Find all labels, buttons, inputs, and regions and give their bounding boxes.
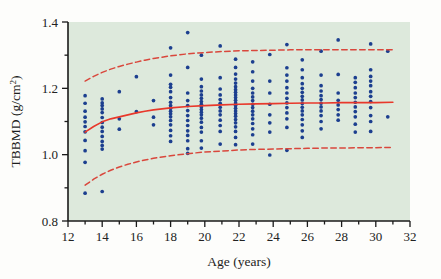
data-point [251, 142, 255, 146]
data-point [251, 91, 255, 95]
data-point [218, 142, 222, 146]
data-point [100, 147, 104, 151]
x-axis-title: Age (years) [207, 254, 270, 269]
data-point [285, 126, 289, 130]
data-point [83, 139, 87, 143]
data-point [268, 91, 272, 95]
data-point [285, 79, 289, 83]
data-point [83, 125, 87, 129]
data-point [268, 121, 272, 125]
data-point [234, 77, 238, 81]
data-point [135, 75, 139, 79]
data-point [169, 140, 173, 144]
data-point [336, 113, 340, 117]
data-point [169, 123, 173, 127]
data-point [300, 136, 304, 140]
y-tick-label: 0.8 [42, 214, 58, 229]
data-point [100, 130, 104, 134]
data-point [200, 93, 204, 97]
data-point [336, 98, 340, 102]
data-point [100, 125, 104, 129]
data-point [200, 139, 204, 143]
data-point [369, 120, 373, 124]
data-point [234, 121, 238, 125]
data-point [251, 113, 255, 117]
data-point [319, 73, 323, 77]
data-point [218, 76, 222, 80]
y-tick-label: 1.0 [42, 147, 58, 162]
scatter-plot-figure: 12141618202224262830321.41.21.00.8Age (y… [0, 0, 441, 279]
data-point [336, 38, 340, 42]
data-point [285, 86, 289, 90]
data-point [369, 42, 373, 46]
data-point [186, 139, 190, 143]
data-point [300, 98, 304, 102]
data-point [169, 115, 173, 119]
data-point [369, 79, 373, 83]
data-point [218, 124, 222, 128]
y-tick-label: 1.2 [42, 81, 58, 96]
data-point [200, 77, 204, 81]
data-point [100, 144, 104, 148]
data-point [218, 87, 222, 91]
plot-background [68, 22, 410, 221]
data-point [319, 109, 323, 113]
data-point [83, 115, 87, 119]
data-point [369, 75, 373, 79]
data-point [186, 66, 190, 70]
data-point [83, 120, 87, 124]
data-point [234, 130, 238, 134]
data-point [83, 94, 87, 98]
data-point [169, 119, 173, 123]
data-point [319, 84, 323, 88]
x-tick-label: 26 [301, 229, 315, 244]
x-tick-label: 18 [164, 229, 177, 244]
data-point [251, 70, 255, 74]
data-point [300, 58, 304, 62]
data-point [169, 134, 173, 138]
data-point [369, 94, 373, 98]
data-point [200, 130, 204, 134]
x-tick-label: 28 [335, 229, 348, 244]
data-point [234, 143, 238, 147]
data-point [353, 91, 357, 95]
data-point [300, 82, 304, 86]
data-point [200, 113, 204, 117]
data-point [152, 115, 156, 119]
data-point [169, 96, 173, 100]
data-point [353, 130, 357, 134]
data-point [251, 60, 255, 64]
data-point [200, 96, 204, 100]
data-point [234, 114, 238, 118]
data-point [100, 116, 104, 120]
data-point [200, 85, 204, 89]
data-point [186, 147, 190, 151]
data-point [83, 149, 87, 153]
data-point [300, 118, 304, 122]
x-tick-label: 20 [198, 229, 211, 244]
data-point [186, 99, 190, 103]
data-point [353, 122, 357, 126]
data-point [353, 86, 357, 90]
data-point [218, 118, 222, 122]
data-point [186, 114, 190, 118]
x-tick-label: 12 [62, 229, 75, 244]
data-point [186, 129, 190, 133]
data-point [353, 115, 357, 119]
data-point [268, 153, 272, 157]
data-point [336, 91, 340, 95]
data-point [117, 90, 121, 94]
data-point [169, 90, 173, 94]
data-point [200, 146, 204, 150]
data-point [251, 122, 255, 126]
data-point [353, 96, 357, 100]
data-point [319, 105, 323, 109]
x-tick-label: 22 [233, 229, 246, 244]
data-point [268, 130, 272, 134]
data-point [234, 125, 238, 129]
x-tick-label: 24 [267, 229, 281, 244]
data-point [200, 89, 204, 93]
data-point [300, 109, 304, 113]
data-point [200, 116, 204, 120]
data-point [83, 160, 87, 164]
